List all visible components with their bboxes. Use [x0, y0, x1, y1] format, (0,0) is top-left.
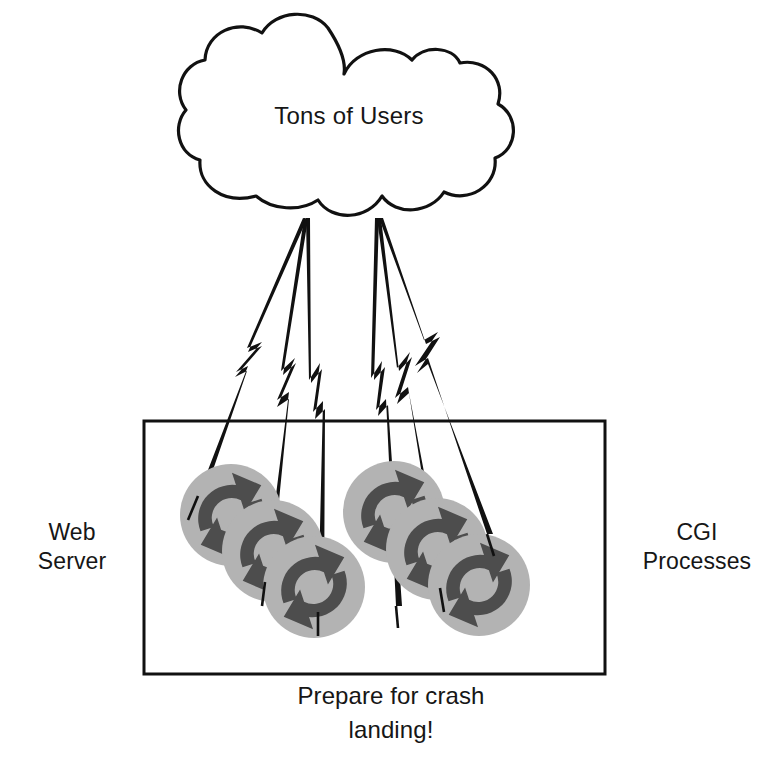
cgi-processes-label: CGI Processes [618, 518, 776, 577]
cgi-process-icon [263, 536, 365, 638]
web-server-label: Web Server [6, 518, 138, 577]
cgi-process-icon [428, 534, 530, 636]
cgi-process-group-right [343, 461, 530, 636]
diagram-canvas: Tons of Users Web Server CGI Processes P… [0, 0, 781, 770]
cloud-label: Tons of Users [214, 102, 484, 130]
diagram-caption: Prepare for crash landing! [200, 679, 582, 747]
cgi-process-group-left [180, 464, 365, 638]
